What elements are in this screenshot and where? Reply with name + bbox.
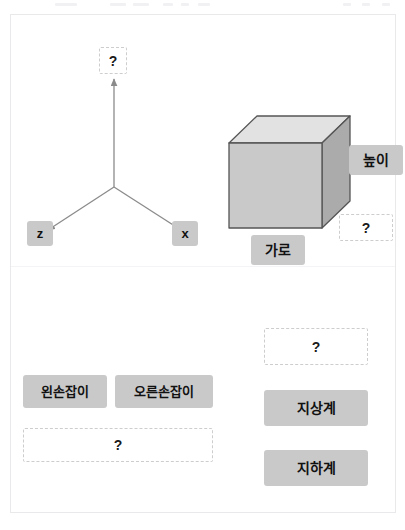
cuboid-depth-answer-slot[interactable]: ? (339, 214, 393, 241)
cuboid-diagram (228, 114, 352, 232)
chrome-tick (181, 3, 189, 6)
chrome-tick (362, 3, 370, 6)
cuboid-svg (228, 114, 352, 232)
z-axis-label[interactable]: z (27, 221, 53, 246)
cuboid-width-label[interactable]: 가로 (251, 235, 305, 265)
clipped-toolbar-chrome (0, 0, 405, 9)
system-answer-slot[interactable]: ? (264, 328, 368, 365)
option-left-handed[interactable]: 왼손잡이 (23, 375, 107, 408)
chrome-tick (198, 3, 210, 6)
cuboid-height-label[interactable]: 높이 (349, 145, 403, 175)
axis-arrow-z (48, 187, 114, 230)
chrome-tick (55, 3, 77, 6)
cuboid-front-face (229, 143, 322, 228)
worksheet-card: ? z x 높이 가로 ? 왼손잡이 오른손잡이 ? ? 지상계 지하계 (10, 14, 396, 513)
x-axis-label[interactable]: x (172, 221, 198, 246)
option-underground-system[interactable]: 지하계 (264, 450, 368, 486)
chrome-tick (163, 3, 173, 6)
screenshot-root: ? z x 높이 가로 ? 왼손잡이 오른손잡이 ? ? 지상계 지하계 (0, 0, 405, 530)
chrome-tick (382, 3, 390, 6)
axis-arrow-x (114, 187, 181, 230)
chrome-tick (133, 3, 149, 6)
handedness-answer-slot[interactable]: ? (23, 428, 213, 462)
option-right-handed[interactable]: 오른손잡이 (115, 375, 213, 408)
chrome-tick (343, 3, 351, 6)
chrome-tick (110, 3, 126, 6)
y-axis-answer-slot[interactable]: ? (99, 47, 127, 74)
option-aboveground-system[interactable]: 지상계 (264, 390, 368, 426)
section-divider (11, 266, 395, 267)
